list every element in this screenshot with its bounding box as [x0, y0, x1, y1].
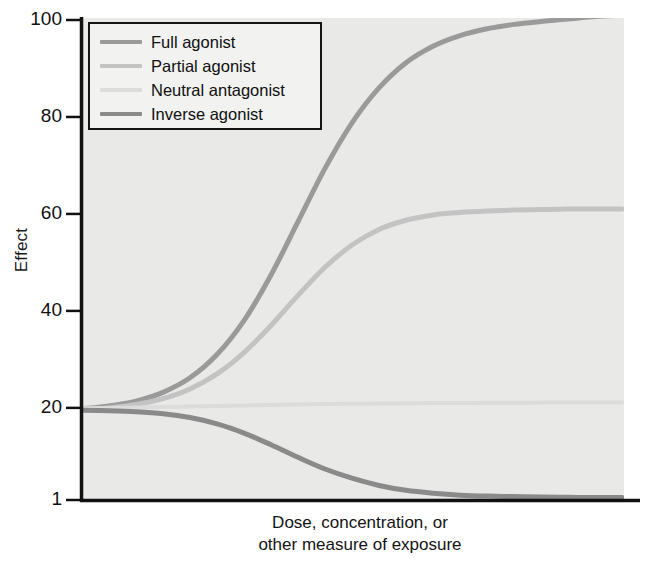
legend-item: Full agonist: [90, 30, 320, 54]
legend-item-label: Inverse agonist: [151, 106, 263, 123]
x-axis-label: Dose, concentration, orother measure of …: [80, 512, 640, 556]
legend-swatch-icon: [100, 112, 142, 116]
legend-item-label: Full agonist: [151, 34, 235, 51]
x-axis-label-line: other measure of exposure: [80, 534, 640, 556]
y-axis-ticks: [66, 20, 82, 500]
legend-item: Partial agonist: [90, 54, 320, 78]
legend-item-label: Partial agonist: [151, 58, 256, 75]
x-axis-label-line: Dose, concentration, or: [80, 512, 640, 534]
legend-item: Inverse agonist: [90, 102, 320, 126]
dose-response-chart: Effect 100806040201 Full agonistPartial …: [0, 0, 656, 566]
legend-item-label: Neutral antagonist: [151, 82, 285, 99]
legend-swatch-icon: [100, 40, 142, 44]
legend-swatch-icon: [100, 64, 142, 68]
legend-swatch-icon: [100, 88, 142, 92]
legend-item: Neutral antagonist: [90, 78, 320, 102]
legend: Full agonistPartial agonistNeutral antag…: [88, 22, 322, 130]
